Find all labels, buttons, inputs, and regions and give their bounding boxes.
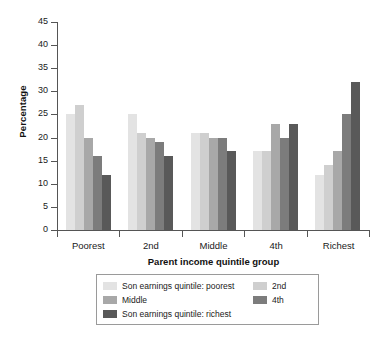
bar-chart: Percentage 051015202530354045 Poorest2nd… — [0, 0, 381, 337]
y-tick-label: 15 — [24, 156, 48, 165]
bar — [75, 105, 84, 230]
legend-item-poorest: Son earnings quintile: poorest — [103, 281, 253, 291]
bar-groups — [57, 22, 369, 230]
y-tick-label: 20 — [24, 133, 48, 142]
bar-group — [244, 22, 306, 230]
y-tick-label: 35 — [24, 63, 48, 72]
x-axis-line — [57, 230, 370, 231]
bar — [137, 133, 146, 230]
bar — [351, 82, 360, 230]
x-tick-mark — [307, 231, 308, 237]
legend-row: Middle 4th — [103, 293, 312, 307]
bar — [271, 124, 280, 230]
bar — [262, 151, 271, 230]
legend-row: Son earnings quintile: richest — [103, 307, 312, 321]
legend-item-2nd: 2nd — [253, 281, 312, 291]
y-axis-labels: 051015202530354045 — [20, 0, 48, 337]
y-tick-label: 25 — [24, 109, 48, 118]
bar-group — [307, 22, 369, 230]
legend-swatch-richest — [103, 310, 117, 318]
bar — [342, 114, 351, 230]
y-tick-label: 30 — [24, 86, 48, 95]
bar — [93, 156, 102, 230]
y-tick-label: 5 — [24, 202, 48, 211]
bar — [102, 175, 111, 230]
x-tick-mark — [244, 231, 245, 237]
bar — [218, 138, 227, 230]
bar — [146, 138, 155, 230]
bar — [66, 114, 75, 230]
bar — [227, 151, 236, 230]
legend-row: Son earnings quintile: poorest 2nd — [103, 279, 312, 293]
x-tick-mark — [182, 231, 183, 237]
bar-group — [119, 22, 181, 230]
y-tick-label: 40 — [24, 40, 48, 49]
bar — [333, 151, 342, 230]
x-axis-labels: Poorest2ndMiddle4thRichest — [57, 240, 370, 254]
chart-legend: Son earnings quintile: poorest 2nd Middl… — [96, 274, 319, 325]
bar-group — [182, 22, 244, 230]
x-tick-mark — [119, 231, 120, 237]
legend-swatch-2nd — [253, 282, 267, 290]
legend-item-middle: Middle — [103, 295, 253, 305]
x-tick-mark — [369, 231, 370, 237]
bar — [280, 138, 289, 230]
plot-area — [57, 22, 369, 230]
bar — [324, 165, 333, 230]
bar-group — [57, 22, 119, 230]
y-tick-label: 45 — [24, 17, 48, 26]
x-axis-title: Parent income quintile group — [57, 256, 370, 267]
y-tick-label: 0 — [24, 225, 48, 234]
x-tick-mark — [57, 231, 58, 237]
x-tick-label: 2nd — [120, 240, 183, 254]
bar — [200, 133, 209, 230]
legend-item-richest: Son earnings quintile: richest — [103, 309, 253, 319]
legend-item-4th: 4th — [253, 295, 312, 305]
x-tick-label: Middle — [182, 240, 245, 254]
bar — [84, 138, 93, 230]
x-tick-label: Poorest — [57, 240, 120, 254]
legend-label-2nd: 2nd — [272, 281, 286, 291]
bar — [289, 124, 298, 230]
x-tick-label: Richest — [307, 240, 370, 254]
legend-swatch-4th — [253, 296, 267, 304]
legend-swatch-middle — [103, 296, 117, 304]
bar — [191, 133, 200, 230]
legend-label-middle: Middle — [122, 295, 147, 305]
bar — [128, 114, 137, 230]
legend-label-4th: 4th — [272, 295, 284, 305]
legend-label-richest: Son earnings quintile: richest — [122, 309, 231, 319]
legend-label-poorest: Son earnings quintile: poorest — [122, 281, 234, 291]
bar — [164, 156, 173, 230]
bar — [315, 175, 324, 230]
bar — [155, 142, 164, 230]
bar — [209, 138, 218, 230]
bar — [253, 151, 262, 230]
y-tick-label: 10 — [24, 179, 48, 188]
x-tick-label: 4th — [245, 240, 308, 254]
legend-swatch-poorest — [103, 282, 117, 290]
